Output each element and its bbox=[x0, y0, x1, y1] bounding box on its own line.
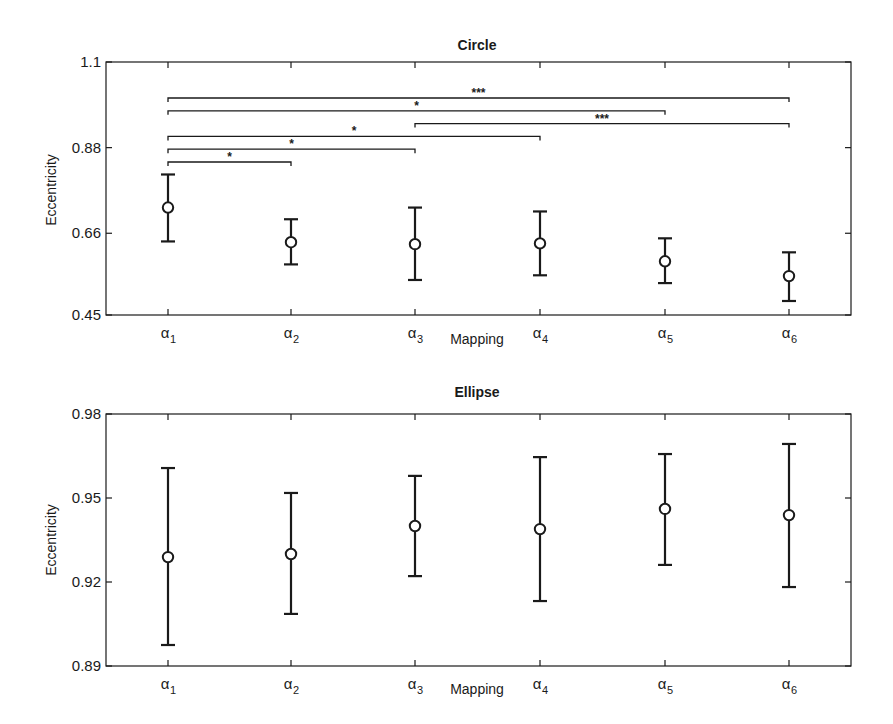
y-tick-label: 0.95 bbox=[72, 489, 101, 506]
x-category-subscript: 3 bbox=[417, 333, 423, 345]
x-category-subscript: 1 bbox=[170, 684, 176, 696]
x-category-label: α bbox=[408, 675, 417, 692]
circle-panel: Circle Eccentricity Mapping 0.450.660.88… bbox=[43, 37, 851, 347]
significance-bracket: * bbox=[168, 150, 291, 166]
mean-marker bbox=[286, 237, 296, 247]
mean-marker bbox=[410, 239, 420, 249]
error-bar-point bbox=[161, 468, 175, 645]
significance-stars: * bbox=[289, 137, 294, 151]
y-tick-label: 0.92 bbox=[72, 573, 101, 590]
x-category-label: α bbox=[658, 675, 667, 692]
x-category-subscript: 4 bbox=[542, 684, 548, 696]
circle-plot-area: 0.450.660.881.1α1α2α3α4α5α6********** bbox=[72, 53, 851, 345]
ellipse-y-axis-label: Eccentricity bbox=[43, 504, 59, 576]
error-bar-point bbox=[408, 476, 422, 576]
error-bar-point bbox=[782, 444, 796, 587]
x-category-label: α bbox=[408, 324, 417, 341]
significance-stars: * bbox=[352, 124, 357, 138]
x-category-label: α bbox=[533, 675, 542, 692]
mean-marker bbox=[660, 256, 670, 266]
error-bar-point bbox=[533, 457, 547, 601]
mean-marker bbox=[163, 202, 173, 212]
significance-bracket: * bbox=[168, 124, 540, 140]
error-bar-point bbox=[161, 174, 175, 241]
x-category-subscript: 6 bbox=[791, 333, 797, 345]
circle-x-axis-label: Mapping bbox=[450, 331, 504, 347]
x-category-label: α bbox=[161, 675, 170, 692]
x-category-subscript: 6 bbox=[791, 684, 797, 696]
x-category-subscript: 4 bbox=[542, 333, 548, 345]
y-tick-label: 1.1 bbox=[80, 53, 101, 70]
ellipse-plot-area: 0.890.920.950.98α1α2α3α4α5α6 bbox=[72, 405, 851, 696]
mean-marker bbox=[286, 549, 296, 559]
mean-marker bbox=[660, 504, 670, 514]
x-category-label: α bbox=[284, 675, 293, 692]
x-category-label: α bbox=[284, 324, 293, 341]
y-tick-label: 0.88 bbox=[72, 139, 101, 156]
mean-marker bbox=[535, 524, 545, 534]
x-category-subscript: 1 bbox=[170, 333, 176, 345]
x-category-label: α bbox=[782, 675, 791, 692]
x-category-label: α bbox=[533, 324, 542, 341]
significance-bracket: *** bbox=[415, 112, 789, 128]
mean-marker bbox=[784, 510, 794, 520]
y-tick-label: 0.89 bbox=[72, 657, 101, 674]
x-category-subscript: 5 bbox=[667, 684, 673, 696]
figure: Circle Eccentricity Mapping 0.450.660.88… bbox=[0, 0, 893, 724]
x-category-label: α bbox=[161, 324, 170, 341]
error-bar-point bbox=[533, 211, 547, 275]
significance-stars: *** bbox=[471, 86, 485, 100]
mean-marker bbox=[163, 552, 173, 562]
ellipse-panel: Ellipse Eccentricity Mapping 0.890.920.9… bbox=[43, 384, 851, 697]
y-tick-label: 0.98 bbox=[72, 405, 101, 422]
chart-canvas: Circle Eccentricity Mapping 0.450.660.88… bbox=[0, 0, 893, 724]
x-category-subscript: 5 bbox=[667, 333, 673, 345]
error-bar-point bbox=[658, 238, 672, 283]
x-category-subscript: 2 bbox=[293, 684, 299, 696]
x-category-subscript: 2 bbox=[293, 333, 299, 345]
mean-marker bbox=[535, 238, 545, 248]
circle-title: Circle bbox=[458, 37, 497, 53]
mean-marker bbox=[410, 521, 420, 531]
ellipse-title: Ellipse bbox=[454, 384, 499, 400]
error-bar-point bbox=[658, 454, 672, 565]
axes-frame bbox=[106, 414, 851, 666]
x-category-label: α bbox=[782, 324, 791, 341]
significance-bracket: * bbox=[168, 99, 665, 115]
circle-y-axis-label: Eccentricity bbox=[43, 154, 59, 226]
error-bar-point bbox=[284, 219, 298, 264]
y-tick-label: 0.66 bbox=[72, 224, 101, 241]
significance-bracket: *** bbox=[168, 86, 789, 102]
significance-bracket: * bbox=[168, 137, 415, 153]
error-bar-point bbox=[782, 252, 796, 301]
significance-stars: * bbox=[414, 99, 419, 113]
significance-stars: * bbox=[227, 150, 232, 164]
y-tick-label: 0.45 bbox=[72, 306, 101, 323]
significance-stars: *** bbox=[595, 112, 609, 126]
x-category-subscript: 3 bbox=[417, 684, 423, 696]
ellipse-x-axis-label: Mapping bbox=[450, 681, 504, 697]
x-category-label: α bbox=[658, 324, 667, 341]
error-bar-point bbox=[284, 493, 298, 614]
error-bar-point bbox=[408, 208, 422, 280]
mean-marker bbox=[784, 271, 794, 281]
